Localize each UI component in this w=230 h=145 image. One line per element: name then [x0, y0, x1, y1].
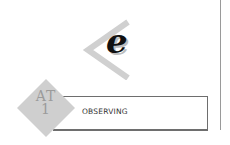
at-badge-line2: 1	[17, 103, 75, 116]
at-badge-text: AT 1	[17, 90, 75, 116]
observing-label: OBSERVING	[82, 107, 128, 116]
vertical-divider	[220, 0, 221, 130]
e-icon-letter: e	[106, 24, 128, 58]
observing-label-box	[53, 96, 208, 131]
